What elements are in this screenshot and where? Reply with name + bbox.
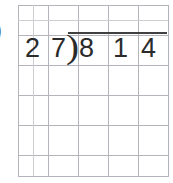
- dividend-digit-2: 1: [113, 35, 128, 62]
- dividend-digit-3: 4: [141, 35, 156, 62]
- dividend-digit-1: 8: [79, 35, 94, 62]
- worksheet-canvas: ) 2 7 ) 8 1 4: [0, 0, 173, 183]
- divisor-digit-2: 7: [51, 35, 66, 62]
- long-division-problem: 2 7 ) 8 1 4: [0, 0, 173, 183]
- divisor-digit-1: 2: [25, 35, 40, 62]
- division-bracket-icon: ): [66, 30, 79, 64]
